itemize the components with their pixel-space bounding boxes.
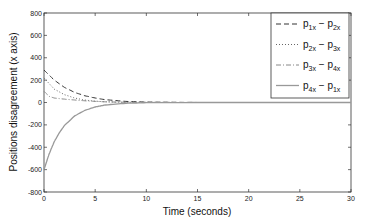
svg-text:20: 20: [245, 195, 253, 202]
y-axis-label: Positions disagreement (x axis): [8, 33, 19, 172]
svg-text:10: 10: [142, 195, 150, 202]
svg-text:-400: -400: [28, 144, 42, 151]
svg-text:600: 600: [30, 32, 42, 39]
svg-text:25: 25: [296, 195, 304, 202]
legend: p1x − p2xp2x − p3xp3x − p4xp4x − p1x: [271, 13, 349, 98]
svg-text:0: 0: [42, 195, 46, 202]
chart: 8006004002000-200-400-600-800 0510152025…: [0, 0, 370, 223]
x-axis-label: Time (seconds): [163, 206, 232, 217]
svg-text:-200: -200: [28, 121, 42, 128]
svg-text:0: 0: [38, 99, 42, 106]
svg-text:-800: -800: [28, 189, 42, 196]
svg-text:30: 30: [347, 195, 355, 202]
svg-text:400: 400: [30, 54, 42, 61]
svg-text:200: 200: [30, 77, 42, 84]
svg-text:800: 800: [30, 10, 42, 17]
svg-text:5: 5: [93, 195, 97, 202]
svg-text:15: 15: [194, 195, 202, 202]
svg-text:-600: -600: [28, 166, 42, 173]
